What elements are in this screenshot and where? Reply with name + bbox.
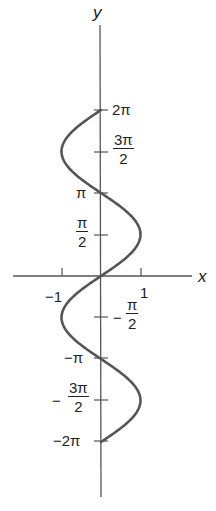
frac-numerator: 3π bbox=[68, 380, 89, 397]
frac-denominator: 2 bbox=[74, 397, 82, 414]
frac-denominator: 2 bbox=[119, 149, 127, 166]
y-tick-label-neg-pi-2: π 2 bbox=[126, 297, 138, 331]
y-tick-label-2pi: 2π bbox=[112, 102, 131, 117]
y-axis-label: y bbox=[93, 4, 102, 21]
frac-numerator: π bbox=[126, 297, 138, 314]
frac-denominator: 2 bbox=[128, 314, 136, 331]
x-tick-label-neg1: −1 bbox=[45, 289, 62, 304]
x-axis-label: x bbox=[198, 268, 207, 285]
y-tick-label-pi: π bbox=[76, 185, 86, 200]
y-tick-label-neg-3pi-2: 3π 2 bbox=[68, 380, 89, 414]
x-tick-label-pos1: 1 bbox=[140, 285, 148, 300]
y-tick-label-neg-3pi-2-sign: − bbox=[52, 393, 61, 408]
y-tick-label-neg-2pi: −2π bbox=[53, 433, 80, 448]
y-tick-label-3pi-2: 3π 2 bbox=[113, 132, 134, 166]
y-tick-label-neg-pi: −π bbox=[64, 350, 83, 365]
y-tick-label-pi-2: π 2 bbox=[76, 215, 88, 249]
chart-plot bbox=[0, 0, 216, 511]
frac-denominator: 2 bbox=[78, 232, 86, 249]
frac-numerator: 3π bbox=[113, 132, 134, 149]
y-tick-label-neg-pi-2-sign: − bbox=[113, 310, 122, 325]
frac-numerator: π bbox=[76, 215, 88, 232]
y-axis bbox=[100, 25, 101, 497]
